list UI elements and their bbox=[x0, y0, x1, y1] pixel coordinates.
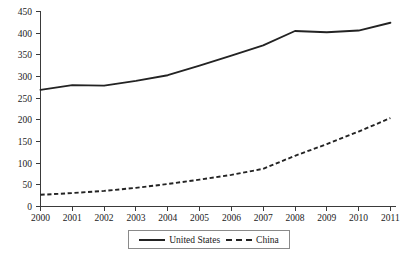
legend-label-china: China bbox=[256, 235, 279, 245]
y-tick-label: 150 bbox=[18, 137, 33, 147]
y-tick-label: 300 bbox=[18, 72, 33, 82]
y-tick-label: 400 bbox=[18, 29, 33, 39]
x-tick-label: 2004 bbox=[158, 213, 177, 223]
y-tick-marks bbox=[36, 12, 41, 207]
x-tick-label: 2011 bbox=[381, 213, 400, 223]
series-line-china bbox=[41, 118, 391, 195]
y-axis: 450 400 350 300 250 200 150 100 50 0 bbox=[18, 7, 41, 212]
legend-line-dashed-icon bbox=[226, 239, 252, 241]
x-tick-label: 2006 bbox=[222, 213, 241, 223]
series-line-united-states bbox=[41, 23, 391, 90]
legend-entry-united-states: United States bbox=[139, 235, 220, 245]
x-tick-label: 2001 bbox=[63, 213, 82, 223]
y-tick-label: 200 bbox=[18, 115, 33, 125]
x-tick-label: 2007 bbox=[254, 213, 273, 223]
y-tick-label: 450 bbox=[18, 7, 33, 17]
legend-entry-china: China bbox=[226, 235, 279, 245]
x-axis: 2000 2001 2002 2003 2004 2005 2006 2007 … bbox=[31, 207, 400, 224]
line-chart: 450 400 350 300 250 200 150 100 50 0 bbox=[0, 0, 411, 255]
x-tick-label: 2003 bbox=[126, 213, 145, 223]
legend-line-solid-icon bbox=[139, 239, 165, 241]
y-tick-labels: 450 400 350 300 250 200 150 100 50 0 bbox=[18, 7, 33, 212]
chart-plot-area: 450 400 350 300 250 200 150 100 50 0 bbox=[0, 0, 411, 255]
y-tick-label: 0 bbox=[27, 202, 32, 212]
chart-legend: United States China bbox=[128, 230, 290, 249]
x-tick-label: 2010 bbox=[349, 213, 368, 223]
x-tick-label: 2009 bbox=[317, 213, 336, 223]
x-tick-label: 2002 bbox=[95, 213, 114, 223]
y-tick-label: 350 bbox=[18, 50, 33, 60]
legend-label-united-states: United States bbox=[169, 235, 220, 245]
y-tick-label: 50 bbox=[23, 180, 33, 190]
y-tick-label: 250 bbox=[18, 94, 33, 104]
x-tick-label: 2008 bbox=[286, 213, 305, 223]
x-tick-label: 2005 bbox=[190, 213, 209, 223]
y-tick-label: 100 bbox=[18, 159, 33, 169]
x-tick-label: 2000 bbox=[31, 213, 50, 223]
x-tick-labels: 2000 2001 2002 2003 2004 2005 2006 2007 … bbox=[31, 213, 400, 223]
x-tick-marks bbox=[41, 207, 391, 212]
